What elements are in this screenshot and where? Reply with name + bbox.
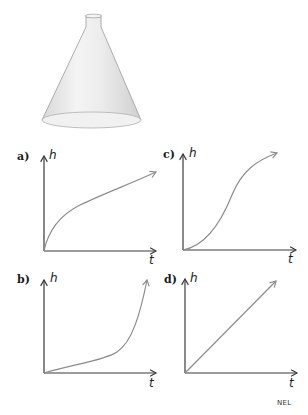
curve-b <box>44 280 147 373</box>
graph-a-y-label: h <box>49 148 57 162</box>
curve-a <box>44 172 156 251</box>
graph-b-x-label: t <box>149 376 154 390</box>
graph-c-label: c) <box>163 148 175 161</box>
graph-d <box>185 279 297 373</box>
publisher-mark: NEL <box>277 399 291 407</box>
curve-c <box>183 153 277 250</box>
graph-c-y-label: h <box>189 146 197 160</box>
graph-b-y-label: h <box>50 271 58 285</box>
graph-c-x-label: t <box>288 252 293 266</box>
figure: a) h t c) h t b) h t d) h t NEL <box>0 0 308 415</box>
graph-a-x-label: t <box>149 253 154 267</box>
graph-c <box>183 153 296 250</box>
graph-d-x-label: t <box>289 376 294 390</box>
graph-d-label: d) <box>164 273 177 286</box>
figure-graphics <box>0 0 308 415</box>
graph-a-label: a) <box>17 150 29 163</box>
graph-b <box>44 280 156 373</box>
curve-d <box>185 281 276 373</box>
conical-flask-icon <box>42 14 141 128</box>
graph-b-label: b) <box>17 273 30 286</box>
graph-a <box>44 156 156 251</box>
graph-d-y-label: h <box>190 271 198 285</box>
